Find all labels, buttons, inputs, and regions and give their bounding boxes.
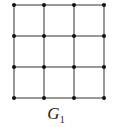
vertex	[102, 34, 106, 38]
vertex	[12, 65, 16, 69]
vertex	[72, 65, 76, 69]
vertex	[72, 96, 76, 100]
vertex	[42, 34, 46, 38]
vertex	[42, 3, 46, 7]
vertex	[12, 34, 16, 38]
vertex	[72, 34, 76, 38]
vertex	[42, 65, 46, 69]
vertex	[102, 96, 106, 100]
vertex	[12, 3, 16, 7]
vertex	[102, 3, 106, 7]
vertex	[72, 3, 76, 7]
vertex	[42, 96, 46, 100]
vertex	[102, 65, 106, 69]
vertex	[12, 96, 16, 100]
graph-label: G1	[36, 104, 76, 125]
